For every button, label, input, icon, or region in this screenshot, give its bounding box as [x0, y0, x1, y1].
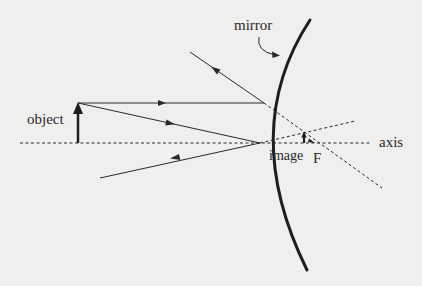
- ray-direction-arrow-icon: [170, 154, 180, 160]
- virtual-extension-through-focus: [264, 103, 382, 188]
- focal-point-label: F: [313, 150, 321, 166]
- reflected-ray-upper: [190, 52, 264, 103]
- ray-direction-arrow-icon: [158, 100, 166, 106]
- object-label: object: [27, 111, 64, 127]
- mirror-pointer-arrowhead-icon: [272, 52, 280, 59]
- ray-direction-arrow-icon: [165, 120, 175, 126]
- convex-mirror: [273, 20, 310, 270]
- reflected-ray-lower: [100, 143, 260, 178]
- convex-mirror-diagram: mirror object image F axis: [0, 0, 422, 286]
- image-arrowhead-icon: [301, 132, 306, 138]
- image-label: image: [269, 148, 303, 163]
- ray-direction-arrow-icon: [211, 67, 221, 75]
- mirror-label: mirror: [234, 17, 272, 33]
- axis-label: axis: [379, 134, 403, 150]
